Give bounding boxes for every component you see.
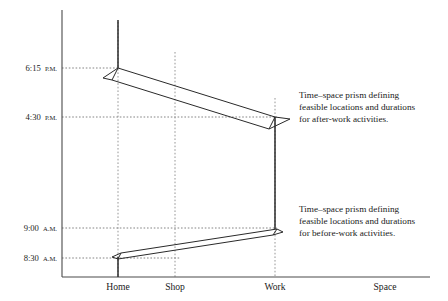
before-work-prism-right-tip: [273, 229, 283, 235]
after-work-annotation-line-1: Time–space prism defining: [299, 90, 400, 100]
axis-label-space: Space: [374, 281, 397, 292]
after-work-annotation-line-2: feasible locations and durations: [299, 102, 416, 112]
after-work-annotation-line-3: for after-work activities.: [299, 114, 388, 124]
axis-label-home: Home: [106, 281, 129, 292]
after-work-prism-left-tip: [103, 68, 118, 80]
axis-label-work: Work: [264, 281, 285, 292]
tick-label-9-00-am: 9:00 A.M.: [24, 223, 58, 233]
space-axis-labels: Home Shop Work Space: [106, 281, 396, 292]
tick-suffix-2: A.M.: [43, 225, 57, 232]
tick-time-3: 8:30: [24, 253, 39, 263]
before-work-annotation: Time–space prism defining feasible locat…: [299, 204, 416, 238]
horizontal-gridlines: [62, 68, 277, 258]
after-work-prism-right-tip: [269, 117, 290, 129]
tick-suffix-3: A.M.: [43, 255, 57, 262]
after-work-prism-bottom-edge: [112, 80, 269, 129]
tick-time-2: 9:00: [24, 223, 39, 233]
after-work-annotation: Time–space prism defining feasible locat…: [299, 90, 416, 124]
tick-time-0: 6:15: [25, 63, 40, 73]
tick-label-4-30-pm: 4:30 P.M.: [25, 112, 57, 122]
before-work-prism-top-edge: [121, 229, 277, 253]
tick-label-8-30-am: 8:30 A.M.: [24, 253, 58, 263]
after-work-prism: [103, 68, 290, 129]
tick-label-6-15-pm: 6:15 P.M.: [25, 63, 57, 73]
tick-suffix-0: P.M.: [45, 65, 57, 72]
tick-time-1: 4:30: [25, 112, 40, 122]
before-work-annotation-line-2: feasible locations and durations: [299, 216, 416, 226]
time-axis-labels: 6:15 P.M. 4:30 P.M. 9:00 A.M. 8:30 A.M.: [24, 63, 58, 263]
before-work-annotation-line-1: Time–space prism defining: [299, 204, 400, 214]
diagram-canvas: 6:15 P.M. 4:30 P.M. 9:00 A.M. 8:30 A.M. …: [0, 0, 448, 301]
time-space-prism-figure: 6:15 P.M. 4:30 P.M. 9:00 A.M. 8:30 A.M. …: [0, 0, 448, 301]
after-work-prism-top-edge: [118, 68, 275, 117]
before-work-prism-bottom-edge: [118, 235, 273, 259]
before-work-prism: [112, 229, 283, 259]
axis-label-shop: Shop: [165, 281, 185, 292]
before-work-annotation-line-3: for before-work activities.: [299, 228, 395, 238]
tick-suffix-1: P.M.: [45, 114, 57, 121]
